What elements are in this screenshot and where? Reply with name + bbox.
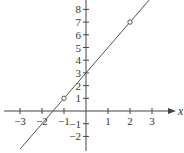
y-tick-label: 5 <box>76 42 82 54</box>
y-tick-label: 8 <box>76 3 82 15</box>
open-point-marker <box>128 20 132 24</box>
y-tick-label: −2 <box>69 130 81 142</box>
x-axis-label: x <box>177 104 184 118</box>
x-tick-label: −3 <box>14 115 26 127</box>
x-tick-label: −2 <box>36 115 48 127</box>
y-tick-label: 1 <box>76 92 82 104</box>
y-tick-label: −1 <box>69 118 81 130</box>
x-tick-label: −1 <box>58 115 70 127</box>
y-tick-label: 3 <box>76 67 82 79</box>
y-tick-label: 6 <box>76 29 82 41</box>
x-tick-label: 2 <box>127 115 133 127</box>
x-axis-arrow-icon <box>168 108 176 114</box>
x-tick-label: 3 <box>149 115 155 127</box>
x-tick-label: 1 <box>105 115 111 127</box>
y-tick-label: 7 <box>76 16 82 28</box>
y-tick-label: 4 <box>76 54 82 66</box>
axes: x <box>4 0 184 151</box>
open-point-marker <box>62 96 66 100</box>
coordinate-plane: x −3−2−1123−2−112345678 <box>0 0 184 153</box>
